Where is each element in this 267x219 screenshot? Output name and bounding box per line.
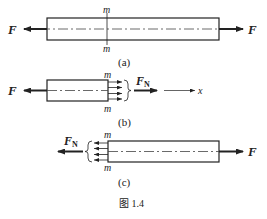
figure-caption: 图 1.4	[119, 198, 144, 209]
panel-a: F F m m (a)	[7, 4, 257, 69]
panel-label-a: (a)	[118, 56, 131, 69]
panel-c: FN F m m (c)	[58, 129, 257, 189]
brace-c	[85, 141, 92, 162]
section-bottom-label-b: m	[104, 103, 111, 114]
panel-label-b: (b)	[118, 116, 131, 129]
left-force-label-b: F	[7, 83, 17, 98]
section-bottom-label-a: m	[103, 43, 110, 54]
section-top-label-a: m	[103, 4, 110, 15]
section-top-label-b: m	[104, 69, 111, 80]
left-force-label-a: F	[7, 22, 17, 37]
section-top-label-c: m	[104, 129, 111, 140]
right-force-label-a: F	[247, 22, 257, 37]
internal-force-label-b: FN	[135, 74, 150, 89]
figure-canvas: F F m m (a) F FN x m m (b)	[0, 0, 267, 219]
distributed-stress-arrows-c	[94, 143, 108, 160]
internal-force-label-c: FN	[63, 134, 78, 149]
x-axis-label-b: x	[197, 85, 203, 96]
section-bottom-label-c: m	[104, 162, 111, 173]
brace-b	[124, 80, 131, 101]
panel-label-c: (c)	[118, 176, 131, 189]
right-force-label-c: F	[247, 144, 257, 159]
distributed-stress-arrows-b	[108, 82, 122, 99]
panel-b: F FN x m m (b)	[7, 69, 203, 129]
